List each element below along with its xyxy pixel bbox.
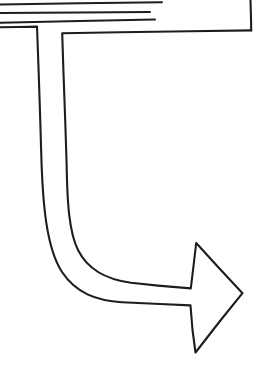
top-rule-line-2 bbox=[0, 12, 150, 13]
corner-bracket-vertical bbox=[251, 0, 252, 31]
corner-bracket bbox=[251, 0, 252, 31]
curved-arrow-illustration bbox=[0, 0, 265, 381]
drawing-canvas bbox=[0, 0, 265, 381]
